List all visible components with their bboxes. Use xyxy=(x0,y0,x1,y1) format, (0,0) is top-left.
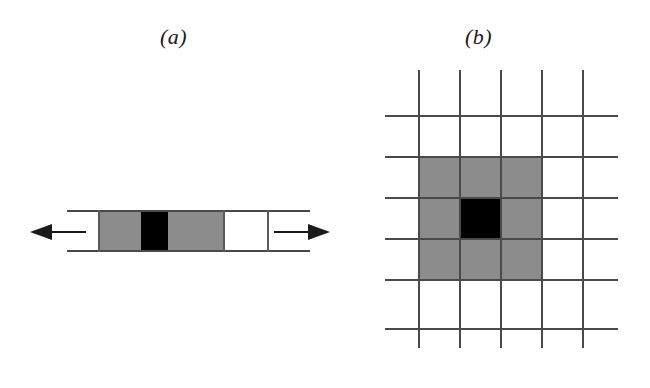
strip-divider-1 xyxy=(98,210,100,252)
figure-root: (a) (b) xyxy=(0,0,650,388)
strip-cell-gray-right xyxy=(168,212,224,250)
grid-hline-6 xyxy=(385,328,618,330)
panel-a: (a) xyxy=(0,0,325,388)
grid-vline-3 xyxy=(500,70,502,348)
strip-cell-black-center xyxy=(141,212,168,250)
grid-hline-4 xyxy=(385,238,618,240)
strip-divider-2 xyxy=(223,210,225,252)
strip-divider-3 xyxy=(267,210,269,252)
strip-cell-gray-left xyxy=(99,212,141,250)
grid-hline-5 xyxy=(385,279,618,281)
panel-b: (b) xyxy=(325,0,650,388)
arrow-left-head-icon xyxy=(30,224,52,240)
grid-vline-5 xyxy=(582,70,584,348)
panel-a-label: (a) xyxy=(160,24,187,50)
grid-hline-3 xyxy=(385,197,618,199)
grid-vline-4 xyxy=(541,70,543,348)
grid-black-cell xyxy=(459,197,500,238)
panel-b-label: (b) xyxy=(465,24,492,50)
grid-vline-1 xyxy=(418,70,420,348)
arrow-right-shaft xyxy=(274,231,310,233)
grid-hline-1 xyxy=(385,115,618,117)
grid-vline-2 xyxy=(459,70,461,348)
strip-cell-white-1 xyxy=(224,212,268,250)
strip-rail-bottom xyxy=(67,250,310,252)
grid-hline-2 xyxy=(385,156,618,158)
arrow-left-shaft xyxy=(50,231,86,233)
